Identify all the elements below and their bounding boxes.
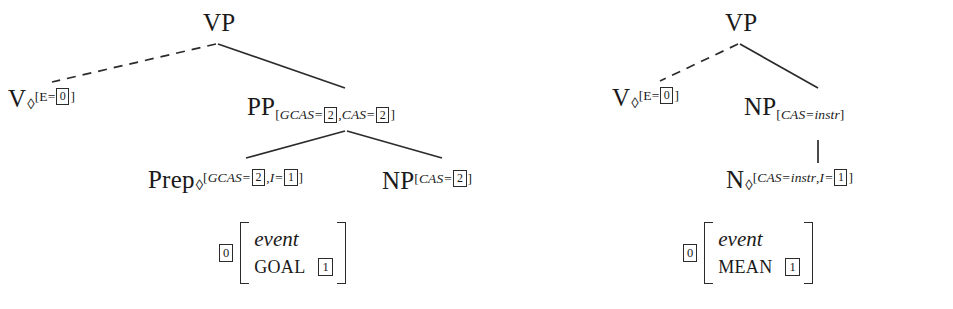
diamond-icon: ◊ (744, 177, 752, 193)
right-n-feat-cas: CAS=instr (757, 170, 816, 185)
index-tag: 0 (56, 88, 69, 105)
edge-pp-to-np-left (347, 131, 442, 158)
left-pp-feat-close: ] (390, 107, 395, 122)
edge-vp-to-pp-left (218, 44, 345, 88)
edge-vp-to-v-left (52, 44, 216, 82)
left-prep-feat-gcas: GCAS= (208, 170, 251, 185)
edge-vp-to-np-right (740, 44, 818, 88)
left-pp-feat-gcas: GCAS= (280, 107, 323, 122)
left-prep-feat-close: ] (299, 170, 304, 185)
left-prep-node: Prep◊[GCAS=2,I=1] (148, 167, 303, 192)
right-avm-value: 1 (785, 258, 799, 276)
left-pp-feat-cas: CAS= (342, 107, 376, 122)
left-anchor-v-feat-close: ] (70, 89, 75, 104)
diamond-icon: ◊ (195, 177, 203, 193)
left-root-vp: VP (203, 10, 235, 35)
right-np-feat-cas: CAS=instr (781, 107, 840, 122)
edge-pp-to-prep-left (246, 131, 345, 158)
figure-canvas: VP V◊[E=0] PP[GCAS=2,CAS=2] Prep◊[GCAS=2… (0, 0, 953, 309)
right-root-vp-label: VP (725, 9, 757, 36)
left-prep-label: Prep (148, 166, 195, 193)
right-n-feat-close: ] (848, 170, 853, 185)
index-tag: 2 (453, 170, 466, 187)
right-anchor-v-label: V (612, 84, 630, 111)
left-avm-row-attr: GOAL 1 (254, 253, 332, 281)
right-avm-row-type: event (718, 225, 799, 253)
left-anchor-v-feat-open: [E= (35, 89, 56, 104)
left-avm-row-type: event (254, 225, 332, 253)
right-n-feat-i: I= (820, 170, 834, 185)
right-np-feat-close: ] (840, 107, 845, 122)
left-np-feat-close: ] (468, 171, 473, 186)
right-np-label: NP (744, 93, 776, 120)
left-root-vp-label: VP (203, 9, 235, 36)
left-pp-node: PP[GCAS=2,CAS=2] (247, 94, 395, 124)
edge-vp-to-v-right (660, 44, 738, 81)
diamond-icon: ◊ (630, 95, 638, 111)
index-tag: 1 (834, 169, 847, 186)
right-root-vp: VP (725, 10, 757, 35)
left-avm-brackets: event GOAL 1 (240, 222, 345, 284)
index-tag: 2 (324, 107, 337, 124)
left-np-node: NP[CAS=2] (382, 168, 472, 193)
index-tag: 2 (252, 169, 265, 186)
index-tag: 2 (376, 107, 389, 124)
right-anchor-v-feat-close: ] (674, 88, 679, 103)
right-avm-attribute: MEAN (718, 257, 772, 278)
left-np-label: NP (382, 167, 414, 194)
left-avm-type: event (254, 227, 298, 252)
right-np-node: NP[CAS=instr] (744, 94, 844, 122)
index-tag: 1 (284, 169, 297, 186)
left-anchor-v: V◊[E=0] (8, 86, 75, 111)
left-avm-attribute: GOAL (254, 257, 305, 278)
right-avm-brackets: event MEAN 1 (704, 222, 812, 284)
right-n-node: N◊[CAS=instr,I=1] (726, 167, 853, 192)
right-anchor-v: V◊[E=0] (612, 85, 679, 110)
left-feature-matrix: 0 event GOAL 1 (219, 222, 346, 284)
right-feature-matrix: 0 event MEAN 1 (683, 222, 813, 284)
right-avm-row-attr: MEAN 1 (718, 253, 799, 281)
right-avm-type: event (718, 227, 762, 252)
left-prep-feat-i: I= (270, 170, 284, 185)
right-anchor-v-feat-open: [E= (639, 88, 660, 103)
left-np-feat-cas: CAS= (419, 171, 453, 186)
left-anchor-v-label: V (8, 85, 26, 112)
left-avm-value: 1 (318, 258, 332, 276)
right-avm-index: 0 (683, 244, 697, 262)
right-n-label: N (726, 166, 744, 193)
left-pp-label: PP (247, 93, 275, 120)
index-tag: 0 (660, 87, 673, 104)
diamond-icon: ◊ (26, 96, 34, 112)
left-avm-index: 0 (219, 244, 233, 262)
